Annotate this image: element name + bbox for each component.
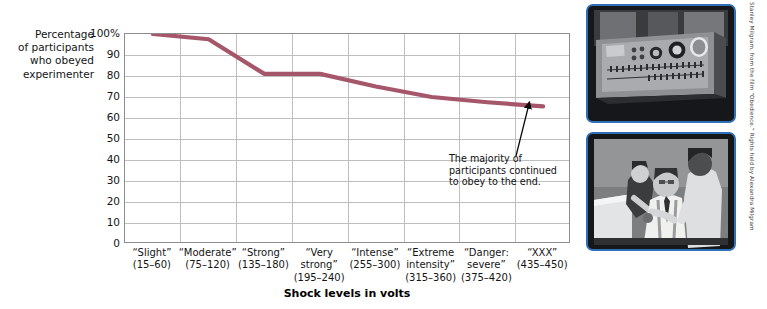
photo-column: [586, 4, 736, 252]
y-axis-tick-labels: 100% 90 80 70 60 50 40 30 20 10 0: [82, 0, 120, 309]
y-axis-tick: 0: [82, 238, 120, 249]
photo-credit: Stanley Milgram, from the film “Obedienc…: [744, 2, 758, 252]
chart-annotation-line: The majority of: [449, 153, 581, 165]
y-axis-tick: 20: [82, 196, 120, 207]
learner-strapped-photo: [586, 132, 736, 251]
y-axis-tick: 80: [82, 70, 120, 81]
y-axis-caption-line: experimenter: [2, 68, 94, 81]
y-axis-caption-line: of participants: [2, 41, 94, 54]
chart-annotation-line: to obey to the end.: [449, 176, 581, 188]
y-axis-caption-line: who obeyed: [2, 54, 94, 67]
x-axis-category-label-line: (375–420): [451, 272, 523, 284]
y-axis-tick: 40: [82, 154, 120, 165]
y-axis-tick: 10: [82, 217, 120, 228]
x-axis-category-label-line: (435–450): [506, 259, 578, 271]
y-axis-tick: 70: [82, 91, 120, 102]
shock-generator-photo: [586, 4, 736, 123]
annotation-arrow-icon: [500, 96, 540, 160]
photo-credit-text: Stanley Milgram, from the film “Obedienc…: [749, 2, 755, 231]
x-axis-category-label: “XXX”(435–450): [506, 247, 578, 272]
chart-annotation-line: participants continued: [449, 165, 581, 177]
x-axis-category-label-line: (195–240): [283, 272, 355, 284]
milgram-obedience-figure: Percentage of participants who obeyed ex…: [0, 0, 767, 309]
y-axis-tick: 100%: [82, 28, 120, 39]
y-axis-caption-line: Percentage: [2, 28, 94, 41]
x-axis-title: Shock levels in volts: [124, 287, 570, 300]
y-axis-tick: 30: [82, 175, 120, 186]
x-axis-category-label-line: “XXX”: [506, 247, 578, 259]
y-axis-tick: 90: [82, 49, 120, 60]
chart-annotation: The majority of participants continued t…: [449, 153, 581, 188]
x-axis-category-labels: “Slight”(15–60)“Moderate”(75–120)“Strong…: [124, 247, 570, 291]
y-axis-tick: 50: [82, 133, 120, 144]
y-axis-caption: Percentage of participants who obeyed ex…: [2, 28, 94, 81]
y-axis-tick: 60: [82, 112, 120, 123]
